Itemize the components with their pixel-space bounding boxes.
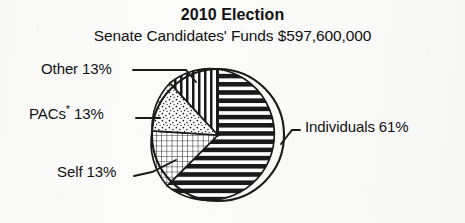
slice-label-self: Self 13% (57, 163, 116, 180)
slice-label-pacs-percent: 13% (70, 105, 104, 122)
slice-label-pacs: PACs* 13% (29, 105, 104, 122)
pie-chart-figure: 2010 Election Senate Candidates' Funds $… (0, 0, 465, 223)
slice-label-other: Other 13% (41, 60, 112, 77)
slice-label-individuals: Individuals 61% (305, 118, 409, 135)
slice-label-pacs-text: PACs (29, 105, 66, 122)
